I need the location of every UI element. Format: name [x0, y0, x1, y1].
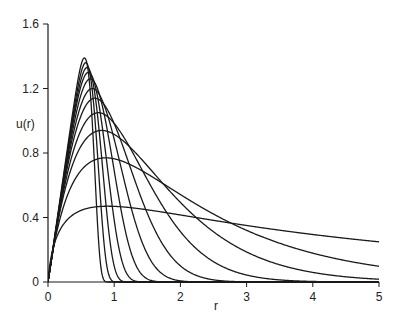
x-tick-label: 4 — [309, 290, 316, 304]
y-tick-label: 1.6 — [22, 17, 39, 31]
x-axis-label: r — [214, 299, 218, 313]
y-tick-label: 0 — [32, 275, 39, 289]
chart: 012345 00.40.81.21.6 r u(r) — [0, 0, 401, 327]
y-tick-label: 0.8 — [22, 146, 39, 160]
x-tick-label: 2 — [177, 290, 184, 304]
x-tick-label: 5 — [376, 290, 383, 304]
series-line-curve-7 — [48, 98, 379, 282]
x-tick-label: 0 — [45, 290, 52, 304]
y-axis-label: u(r) — [16, 117, 35, 131]
axes: 012345 00.40.81.21.6 r u(r) — [16, 17, 383, 313]
series-group — [48, 58, 379, 282]
y-ticks: 00.40.81.21.6 — [22, 17, 48, 289]
y-tick-label: 1.2 — [22, 82, 39, 96]
x-tick-label: 3 — [243, 290, 250, 304]
x-tick-label: 1 — [111, 290, 118, 304]
series-line-curve-5 — [48, 79, 379, 282]
y-tick-label: 0.4 — [22, 211, 39, 225]
series-line-curve-4 — [48, 72, 379, 282]
